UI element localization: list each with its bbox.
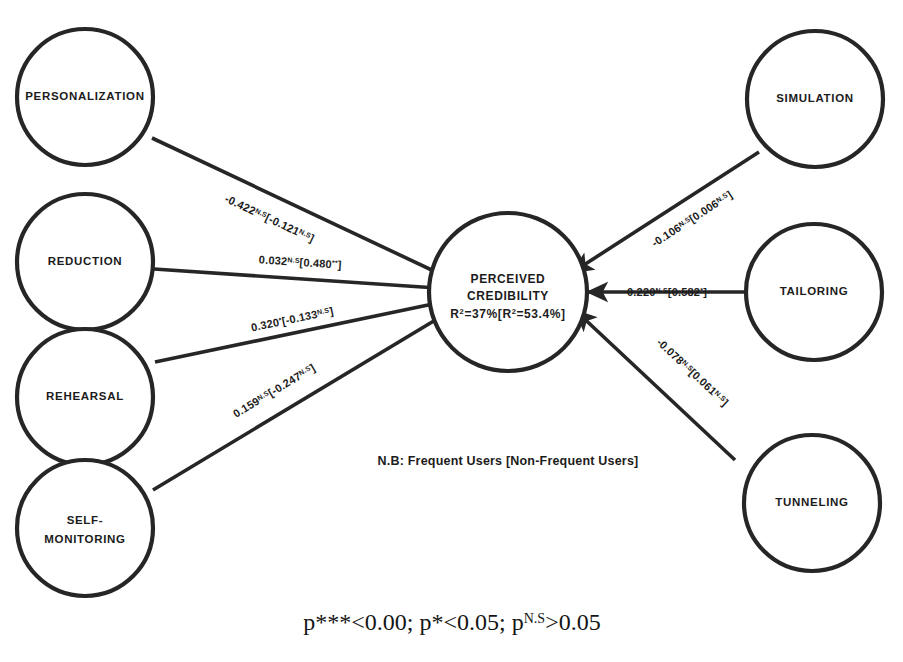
edge-label-tailoring-close: ] — [703, 286, 707, 298]
node-tailoring[interactable]: TAILORING — [746, 224, 882, 360]
note-frequent-users: N.B: Frequent Users [Non-Frequent Users] — [378, 454, 639, 468]
edge-line-rehearsal — [155, 300, 452, 362]
node-label-self-monitoring-line2: MONITORING — [44, 533, 126, 545]
edge-label-self-monitoring-nonfrequent: [-0.247 — [266, 370, 303, 399]
footnote-part2: >0.05 — [545, 609, 601, 635]
node-label-simulation: SIMULATION — [776, 92, 854, 104]
footnote-part1: p***<0.00; p*<0.05; p — [303, 609, 523, 635]
edge-label-self-monitoring-close: ] — [307, 361, 317, 373]
node-perceived-credibility[interactable]: PERCEIVED CREDIBILITY R2=37%[R2=53.4%] — [429, 213, 587, 371]
edge-label-reduction-close: ] — [337, 259, 342, 271]
edge-line-reduction — [154, 269, 452, 289]
edge-label-reduction-frequent: 0.032 — [258, 253, 287, 267]
node-rehearsal[interactable]: REHEARSAL — [17, 329, 153, 465]
edge-label-reduction: 0.032N.S[0.480**] — [258, 253, 342, 270]
edge-label-rehearsal: 0.320*[-0.133N.S] — [250, 305, 335, 334]
node-label-rehearsal: REHEARSAL — [46, 390, 124, 402]
footnote-sup: N.S — [524, 611, 545, 626]
path-model-diagram: PERSONALIZATION REDUCTION REHEARSAL SELF… — [0, 0, 903, 662]
center-label-r2: R2=37%[R2=53.4%] — [450, 307, 565, 322]
node-label-self-monitoring-line1: SELF- — [67, 514, 104, 526]
edge-label-simulation-close: ] — [725, 188, 735, 200]
center-r2-end: =53.4%] — [516, 307, 565, 321]
node-label-personalization: PERSONALIZATION — [25, 90, 145, 102]
edge-label-tailoring: 0.220N.S[0.582*] — [627, 286, 707, 298]
significance-footnote: p***<0.00; p*<0.05; pN.S>0.05 — [303, 609, 600, 635]
edge-label-self-monitoring: 0.159N.S[-0.247N.S] — [231, 361, 317, 419]
node-label-tunneling: TUNNELING — [775, 496, 848, 508]
center-r2-mid: =37%[R — [464, 307, 511, 321]
edge-label-simulation-nonfrequent: [0.006 — [687, 197, 721, 225]
node-reduction[interactable]: REDUCTION — [17, 194, 153, 330]
node-circle-self-monitoring[interactable] — [17, 460, 153, 596]
center-label-line2: CREDIBILITY — [467, 289, 549, 303]
center-r2-pre: R — [450, 307, 459, 321]
edge-label-tailoring-frequent-sig: N.S — [656, 287, 668, 294]
node-label-tailoring: TAILORING — [780, 285, 849, 297]
edge-label-reduction-nonfrequent: [0.480 — [299, 256, 332, 270]
node-personalization[interactable]: PERSONALIZATION — [17, 29, 153, 165]
edge-label-tailoring-frequent: 0.220 — [627, 286, 656, 298]
edge-label-rehearsal-close: ] — [328, 305, 334, 318]
node-label-reduction: REDUCTION — [48, 255, 123, 267]
edge-label-tailoring-nonfrequent: [0.582 — [668, 286, 700, 298]
node-self-monitoring[interactable]: SELF- MONITORING — [17, 460, 153, 596]
edge-label-simulation-frequent: -0.106 — [649, 221, 683, 249]
edge-label-personalization-nonfrequent: [-0.121 — [264, 211, 302, 237]
edge-label-personalization-frequent: -0.422 — [223, 192, 257, 217]
edge-label-rehearsal-frequent: 0.320 — [250, 316, 280, 334]
node-tunneling[interactable]: TUNNELING — [744, 435, 880, 571]
center-label-line1: PERCEIVED — [471, 272, 546, 286]
edge-line-simulation — [573, 152, 759, 272]
path-model-canvas: PERSONALIZATION REDUCTION REHEARSAL SELF… — [0, 0, 903, 662]
edge-label-reduction-frequent-sig: N.S — [287, 256, 300, 264]
node-simulation[interactable]: SIMULATION — [747, 31, 883, 167]
edge-label-personalization: -0.422N.S[-0.121N.S] — [223, 192, 316, 244]
edge-label-rehearsal-nonfrequent: [-0.133 — [281, 308, 319, 327]
